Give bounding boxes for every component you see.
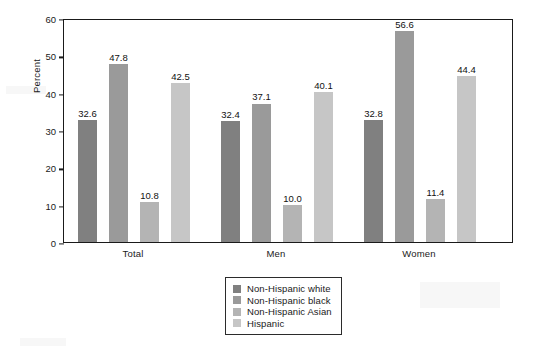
y-tick-mark: [59, 131, 64, 132]
bar: [140, 202, 159, 242]
bar: [171, 83, 190, 242]
bar-value-label: 32.8: [364, 109, 383, 119]
bar: [109, 64, 128, 242]
bar: [252, 104, 271, 243]
y-tick-mark: [59, 169, 64, 170]
bar-value-label: 11.4: [427, 188, 445, 198]
legend-label: Non-Hispanic white: [247, 283, 331, 295]
bar: [395, 31, 414, 242]
legend-swatch-icon: [233, 319, 241, 327]
x-tick-label: Men: [266, 248, 285, 259]
bar-value-label: 32.6: [78, 109, 97, 119]
bar: [364, 120, 383, 242]
bar-value-label: 10.0: [283, 194, 302, 204]
y-tick-label: 20: [30, 165, 56, 175]
scan-artifact: [420, 282, 500, 308]
legend: Non-Hispanic whiteNon-Hispanic blackNon-…: [225, 277, 342, 335]
y-tick-mark: [59, 57, 64, 58]
bar-value-label: 56.6: [395, 20, 414, 30]
legend-item: Hispanic: [233, 318, 332, 330]
y-tick-mark: [59, 206, 64, 207]
legend-label: Non-Hispanic Asian: [247, 306, 332, 318]
legend-item: Non-Hispanic black: [233, 295, 332, 307]
bar: [78, 120, 97, 242]
bar: [426, 199, 445, 242]
legend-item: Non-Hispanic Asian: [233, 306, 332, 318]
y-tick-mark: [59, 243, 64, 244]
x-tick-label: Women: [402, 248, 436, 259]
chart-figure: Percent 0102030405060 32.647.810.842.532…: [0, 0, 538, 354]
legend-swatch-icon: [233, 296, 241, 304]
legend-label: Hispanic: [247, 318, 284, 330]
y-tick-mark: [59, 19, 64, 20]
x-tick-label: Total: [122, 248, 143, 259]
legend-label: Non-Hispanic black: [247, 295, 331, 307]
bar: [283, 205, 302, 242]
bar-value-label: 32.4: [221, 110, 240, 120]
bar-value-label: 40.1: [314, 81, 333, 91]
bar: [457, 76, 476, 242]
y-tick-label: 60: [30, 15, 56, 25]
plot-area: Percent 0102030405060 32.647.810.842.532…: [63, 19, 513, 243]
y-tick-label: 50: [30, 53, 56, 63]
scan-artifact: [20, 338, 66, 346]
legend-swatch-icon: [233, 308, 241, 316]
legend-swatch-icon: [233, 285, 241, 293]
bar-value-label: 10.8: [140, 191, 159, 201]
y-tick-label: 0: [30, 239, 56, 249]
legend-item: Non-Hispanic white: [233, 283, 332, 295]
bar: [221, 121, 240, 242]
y-tick-mark: [59, 94, 64, 95]
bar-value-label: 37.1: [252, 92, 271, 102]
y-axis-title: Percent: [31, 36, 42, 116]
y-tick-label: 40: [30, 90, 56, 100]
y-tick-label: 30: [30, 127, 56, 137]
y-tick-label: 10: [30, 202, 56, 212]
bar-value-label: 44.4: [457, 65, 476, 75]
bar-value-label: 42.5: [171, 72, 190, 82]
bar: [314, 92, 333, 242]
bar-value-label: 47.8: [109, 53, 128, 63]
